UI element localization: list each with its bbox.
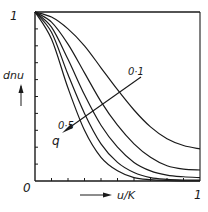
- x-max-label: 1: [194, 188, 202, 202]
- axis-ticks: [35, 29, 184, 181]
- origin-label: 0: [23, 181, 31, 195]
- curves: [35, 12, 200, 181]
- q-label-low: 0·5: [58, 120, 74, 131]
- x-axis-label: u/K: [117, 189, 136, 202]
- y-axis-label: dnu: [3, 69, 24, 82]
- q-label: q: [52, 134, 60, 148]
- curve-q-0-4: [35, 12, 200, 180]
- y-max-label: 1: [10, 9, 18, 23]
- y-axis-arrow: [19, 84, 24, 106]
- curve-q-0-5: [35, 12, 200, 181]
- q-label-high: 0·1: [128, 66, 144, 77]
- plot-frame: [35, 12, 200, 181]
- curve-q-0-3: [35, 12, 200, 178]
- chart: 1 dnu 0 u/K 1 0·1 0·5 q: [0, 0, 208, 212]
- x-axis-arrow: [80, 193, 112, 198]
